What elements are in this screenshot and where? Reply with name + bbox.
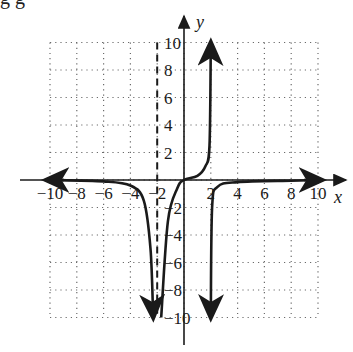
y-tick-label: −4 — [164, 226, 183, 245]
y-tick-label: 4 — [164, 116, 173, 135]
x-axis-label: x — [333, 187, 342, 207]
x-tick-label: −4 — [121, 184, 140, 203]
x-tick-label: −10 — [37, 184, 64, 203]
y-tick-label: −6 — [164, 254, 182, 273]
y-tick-label: −10 — [164, 309, 191, 328]
y-tick-label: 2 — [164, 144, 173, 163]
x-tick-label: 2 — [207, 184, 216, 203]
y-tick-label: 8 — [164, 61, 173, 80]
y-axis-label: y — [194, 12, 204, 32]
x-tick-label: 8 — [287, 184, 296, 203]
tick-labels: −10−8−6−4−2246810108642−2−4−6−8−10xy — [37, 12, 342, 328]
y-tick-label: 10 — [164, 34, 181, 53]
x-tick-label: 4 — [233, 184, 242, 203]
rational-function-graph: −10−8−6−4−2246810108642−2−4−6−8−10xy — [0, 0, 353, 352]
x-tick-label: 10 — [310, 184, 327, 203]
x-tick-label: −8 — [68, 184, 86, 203]
y-tick-label: −8 — [164, 281, 182, 300]
y-tick-label: −2 — [164, 199, 182, 218]
y-tick-label: 6 — [164, 89, 173, 108]
x-tick-label: 6 — [260, 184, 269, 203]
x-tick-label: −6 — [95, 184, 113, 203]
